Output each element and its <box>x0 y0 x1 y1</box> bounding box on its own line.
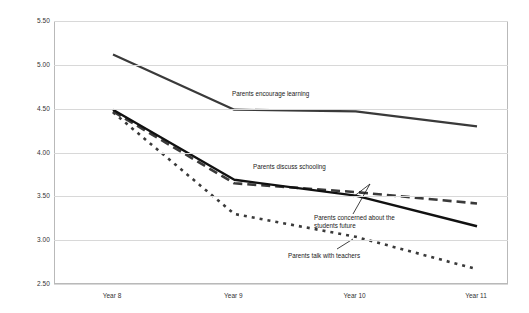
x-axis-tick-label: Year 8 <box>77 292 147 300</box>
gridline <box>54 284 508 285</box>
y-axis-tick-label: 4.00 <box>4 149 50 156</box>
series-annotation-label: students future <box>314 222 356 230</box>
series-line <box>113 112 477 269</box>
gridline <box>54 109 508 110</box>
chart-container: 5.505.004.504.003.503.002.50 Year 8Year … <box>0 0 529 313</box>
x-axis-tick-label: Year 10 <box>320 292 390 300</box>
series-annotation-label: Parents discuss schooling <box>253 163 326 171</box>
y-axis-tick-label: 5.00 <box>4 61 50 68</box>
x-axis-tick-label: Year 11 <box>441 292 511 300</box>
y-axis-tick-label: 3.00 <box>4 236 50 243</box>
y-axis-tick-label: 5.50 <box>4 17 50 24</box>
series-annotation-label: Parents talk with teachers <box>288 252 360 260</box>
x-axis-tick-label: Year 9 <box>198 292 268 300</box>
gridline <box>54 21 508 22</box>
gridline <box>54 65 508 66</box>
series-annotation-label: Parents encourage learning <box>232 90 309 98</box>
gridline <box>54 196 508 197</box>
y-axis-tick-label: 4.50 <box>4 105 50 112</box>
series-annotation-label: Parents concerned about the <box>314 214 395 222</box>
y-axis-tick-label: 2.50 <box>4 280 50 287</box>
gridline <box>54 240 508 241</box>
series-line <box>113 111 477 203</box>
y-axis-tick-label: 3.50 <box>4 192 50 199</box>
gridline <box>54 153 508 154</box>
